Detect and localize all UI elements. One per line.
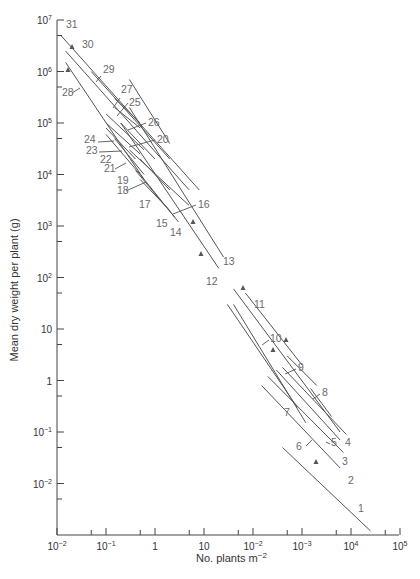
series-label-28: 28	[62, 86, 74, 98]
series-label-31: 31	[66, 18, 78, 30]
arrow-marker	[199, 251, 204, 256]
self-thinning-chart: 10710610510410310210110−110−2 10−210−111…	[0, 0, 420, 579]
tick-label: 104	[343, 540, 358, 552]
tick-label: 10−1	[96, 540, 115, 552]
series-label-17: 17	[139, 198, 151, 210]
arrow-marker	[241, 285, 246, 290]
tick-label: 102	[37, 272, 52, 284]
tick-label: 1	[152, 541, 158, 552]
series-label-30: 30	[82, 38, 94, 50]
series-label-20: 20	[157, 133, 169, 145]
series-label-25: 25	[129, 96, 141, 108]
leader-line	[99, 151, 122, 152]
y-axis-title: Mean dry weight per plant (g)	[8, 218, 20, 361]
series-line-7	[227, 304, 297, 407]
series-label-13: 13	[223, 255, 235, 267]
tick-label: 10−3	[292, 540, 311, 552]
series-line-1	[283, 448, 371, 531]
tick-label: 10−1	[33, 426, 52, 438]
tick-label: 105	[37, 117, 52, 129]
series-label-18: 18	[117, 184, 129, 196]
series-label-27: 27	[121, 83, 133, 95]
series-label-1: 1	[358, 502, 364, 514]
series-label-5: 5	[331, 436, 337, 448]
tick-label: 105	[392, 540, 407, 552]
tick-label: 10−2	[33, 478, 52, 490]
series-label-3: 3	[342, 455, 348, 467]
series-label-4: 4	[345, 436, 351, 448]
series-label-21: 21	[104, 162, 116, 174]
series-label-15: 15	[156, 217, 168, 229]
tick-label: 10−2	[47, 540, 66, 552]
series-label-9: 9	[298, 361, 304, 373]
line-labels: 3130292827252624202322211918171615141312…	[62, 18, 364, 514]
arrow-marker	[284, 337, 289, 342]
arrow-marker	[314, 459, 319, 464]
series-label-12: 12	[206, 275, 218, 287]
series-line-30	[66, 51, 190, 190]
series-label-10: 10	[270, 332, 282, 344]
x-ticks: 10−210−111010−210−3104105	[47, 528, 407, 552]
series-label-29: 29	[103, 63, 115, 75]
series-label-6: 6	[296, 440, 302, 452]
leader-line	[98, 141, 114, 142]
leader-line	[262, 340, 269, 345]
leader-line	[326, 442, 330, 444]
leader-line	[306, 440, 312, 446]
y-ticks: 10710610510410310210110−110−2	[33, 14, 64, 499]
tick-label: 104	[37, 169, 52, 181]
x-axis-title: No. plants m−2	[196, 551, 267, 564]
series-label-23: 23	[86, 144, 98, 156]
leader-line	[126, 182, 146, 191]
series-label-11: 11	[254, 298, 265, 310]
tick-label: 106	[37, 66, 52, 78]
series-label-14: 14	[170, 226, 182, 238]
tick-label: 107	[37, 14, 52, 26]
tick-label: 103	[37, 220, 52, 232]
arrow-marker	[271, 347, 276, 352]
leader-line	[115, 163, 126, 169]
tick-label: 10	[198, 541, 210, 552]
series-label-26: 26	[148, 116, 160, 128]
series-label-7: 7	[284, 406, 290, 418]
series-label-2: 2	[348, 474, 354, 486]
series-label-8: 8	[322, 386, 328, 398]
tick-label: 1	[46, 376, 52, 387]
series-label-16: 16	[198, 198, 210, 210]
series-line-5	[276, 370, 340, 440]
arrow-marker	[191, 219, 196, 224]
tick-label: 10	[41, 324, 53, 335]
series-line-31	[61, 36, 199, 191]
